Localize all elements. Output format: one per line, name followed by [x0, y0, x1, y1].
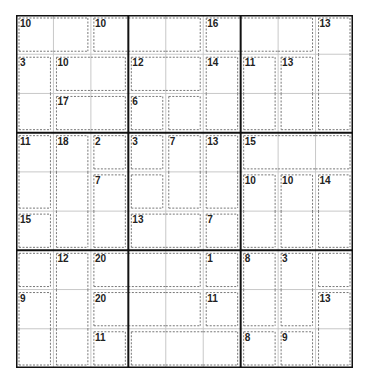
- cell-r7c9[interactable]: [316, 250, 353, 289]
- cell-r7c5[interactable]: [166, 250, 203, 289]
- cage-sum-label: 7: [207, 215, 213, 225]
- cell-r6c2[interactable]: [53, 211, 90, 250]
- cell-r5c6[interactable]: [203, 172, 240, 211]
- cage-sum-label: 18: [57, 137, 68, 147]
- cell-r6c5[interactable]: [166, 211, 203, 250]
- cage-sum-label: 9: [20, 294, 26, 304]
- cell-r1c2[interactable]: [53, 15, 90, 54]
- cage-sum-label: 9: [282, 333, 288, 343]
- cage-sum-label: 11: [20, 137, 31, 147]
- cell-r1c5[interactable]: [166, 15, 203, 54]
- cage-sum-label: 15: [20, 215, 31, 225]
- cage-sum-label: 14: [207, 58, 218, 68]
- cage-sum-label: 3: [282, 254, 288, 264]
- cage-sum-label: 13: [320, 19, 331, 29]
- cell-r8c7[interactable]: [241, 290, 278, 329]
- cage-sum-label: 8: [245, 254, 251, 264]
- cage-sum-label: 6: [132, 97, 138, 107]
- cell-r9c5[interactable]: [166, 329, 203, 368]
- cage-sum-label: 3: [132, 137, 138, 147]
- cage-sum-label: 12: [132, 58, 143, 68]
- cell-r6c7[interactable]: [241, 211, 278, 250]
- cage-sum-label: 3: [20, 58, 26, 68]
- cell-r2c5[interactable]: [166, 54, 203, 93]
- cage-sum-label: 10: [95, 19, 106, 29]
- killer-sudoku-board: 1010161331012141113176111823713157101014…: [16, 15, 353, 368]
- cage-sum-label: 20: [95, 294, 106, 304]
- cage-sum-label: 14: [320, 176, 331, 186]
- cage-sum-label: 13: [207, 137, 218, 147]
- cage-sum-label: 10: [57, 58, 68, 68]
- cell-r9c2[interactable]: [53, 329, 90, 368]
- cage-sum-label: 10: [20, 19, 31, 29]
- cage-sum-label: 12: [57, 254, 68, 264]
- cage-sum-label: 11: [95, 333, 106, 343]
- cage-sum-label: 10: [245, 176, 256, 186]
- cell-r3c6[interactable]: [203, 93, 240, 132]
- cage-sum-label: 8: [245, 333, 251, 343]
- cage-sum-label: 16: [207, 19, 218, 29]
- cell-r1c7[interactable]: [241, 15, 278, 54]
- cell-r5c4[interactable]: [128, 172, 165, 211]
- cage-sum-label: 1: [207, 254, 213, 264]
- cell-r5c2[interactable]: [53, 172, 90, 211]
- cell-r9c1[interactable]: [16, 329, 53, 368]
- cell-r9c6[interactable]: [203, 329, 240, 368]
- cell-r9c9[interactable]: [316, 329, 353, 368]
- cell-r3c5[interactable]: [166, 93, 203, 132]
- cage-sum-label: 11: [245, 58, 256, 68]
- cage-sum-label: 13: [282, 58, 293, 68]
- cage-sum-label: 7: [170, 137, 176, 147]
- cell-r2c9[interactable]: [316, 54, 353, 93]
- cage-sum-label: 13: [132, 215, 143, 225]
- cell-r1c4[interactable]: [128, 15, 165, 54]
- cell-r8c8[interactable]: [278, 290, 315, 329]
- cage-sum-label: 13: [320, 294, 331, 304]
- cell-r3c3[interactable]: [91, 93, 128, 132]
- cage-sum-label: 17: [57, 97, 68, 107]
- cage-sum-label: 11: [207, 294, 218, 304]
- cell-r7c4[interactable]: [128, 250, 165, 289]
- cell-r8c5[interactable]: [166, 290, 203, 329]
- cell-r4c8[interactable]: [278, 133, 315, 172]
- cell-r3c1[interactable]: [16, 93, 53, 132]
- cell-r6c3[interactable]: [91, 211, 128, 250]
- cage-sum-label: 20: [95, 254, 106, 264]
- cell-r6c8[interactable]: [278, 211, 315, 250]
- cell-r3c8[interactable]: [278, 93, 315, 132]
- cage-sum-label: 2: [95, 137, 101, 147]
- cell-r6c9[interactable]: [316, 211, 353, 250]
- cell-r5c1[interactable]: [16, 172, 53, 211]
- cage-sum-label: 10: [282, 176, 293, 186]
- cell-r3c7[interactable]: [241, 93, 278, 132]
- cell-r3c9[interactable]: [316, 93, 353, 132]
- cell-r7c1[interactable]: [16, 250, 53, 289]
- cell-r8c4[interactable]: [128, 290, 165, 329]
- cell-r5c5[interactable]: [166, 172, 203, 211]
- cell-r9c4[interactable]: [128, 329, 165, 368]
- cell-r1c8[interactable]: [278, 15, 315, 54]
- cage-sum-label: 15: [245, 137, 256, 147]
- cell-r4c9[interactable]: [316, 133, 353, 172]
- cage-sum-label: 7: [95, 176, 101, 186]
- cell-r8c2[interactable]: [53, 290, 90, 329]
- cell-r2c3[interactable]: [91, 54, 128, 93]
